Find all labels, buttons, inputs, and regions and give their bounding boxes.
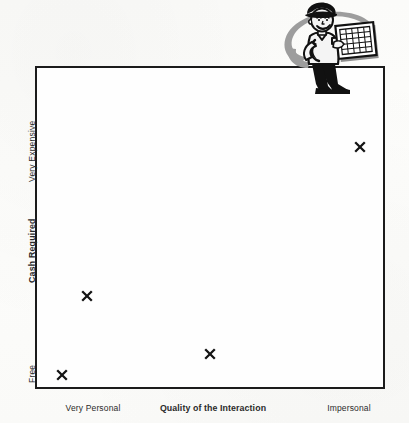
- chart-page: Very Expensive Cash Required Free Very P…: [0, 0, 409, 423]
- cartoon-man-holding-grid-chart-illustration: [272, 2, 382, 100]
- y-axis-title: Cash Required: [28, 218, 37, 283]
- data-point-marker: [54, 367, 70, 383]
- data-point-marker: [79, 288, 95, 304]
- plot-frame: [35, 66, 385, 389]
- x-axis-title: Quality of the Interaction: [153, 404, 273, 413]
- grid-board-icon: [333, 22, 379, 62]
- y-axis-tick-top: Very Expensive: [28, 121, 37, 182]
- data-point-marker: [352, 139, 368, 155]
- y-axis-tick-bottom: Free: [28, 365, 37, 383]
- x-axis-tick-right: Impersonal: [299, 404, 399, 413]
- x-axis-tick-left: Very Personal: [43, 404, 143, 413]
- data-point-marker: [202, 346, 218, 362]
